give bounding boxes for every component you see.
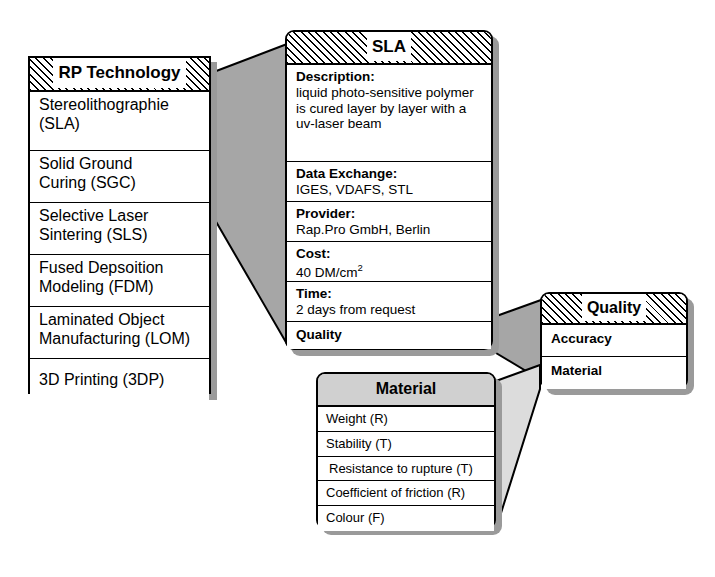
diagram-canvas: RP Technology Stereolithographie (SLA) S… (0, 0, 715, 577)
sla-row-time[interactable]: Time: 2 days from request (287, 282, 491, 322)
sla-row-cost[interactable]: Cost: 40 DM/cm2 (287, 242, 491, 282)
material-item-stability[interactable]: Stability (T) (318, 432, 494, 457)
material-box: Material Weight (R) Stability (T) Resist… (316, 372, 496, 529)
material-item-colour[interactable]: Colour (F) (318, 506, 494, 531)
rp-item-sla-line2: (SLA) (39, 115, 200, 134)
rp-item-lom-line1: Laminated Object (39, 311, 200, 330)
rp-item-fdm[interactable]: Fused Depsoition Modeling (FDM) (30, 255, 209, 307)
material-item-friction-label: Coefficient of friction (R) (326, 485, 465, 500)
sla-cost-key: Cost: (296, 246, 483, 262)
quality-box: Quality Accuracy Material (540, 292, 688, 389)
sla-title: SLA (367, 32, 411, 61)
rp-technology-title: RP Technology (53, 58, 185, 88)
quality-title: Quality (582, 294, 646, 321)
rp-item-3dp[interactable]: 3D Printing (3DP) (30, 359, 209, 403)
rp-item-fdm-line2: Modeling (FDM) (39, 278, 200, 297)
quality-item-accuracy[interactable]: Accuracy (542, 325, 686, 357)
sla-cost-value: 40 DM/cm2 (296, 262, 483, 280)
rp-item-sgc[interactable]: Solid Ground Curing (SGC) (30, 151, 209, 203)
sla-description-key: Description: (296, 69, 483, 85)
sla-row-data-exchange[interactable]: Data Exchange: IGES, VDAFS, STL (287, 162, 491, 202)
rp-item-sls-line2: Sintering (SLS) (39, 226, 200, 245)
material-item-stability-label: Stability (T) (326, 436, 392, 451)
quality-item-material-label: Material (551, 363, 602, 378)
connector-material (496, 365, 540, 529)
rp-technology-box: RP Technology Stereolithographie (SLA) S… (28, 56, 211, 394)
connector-sla (211, 44, 287, 344)
quality-header: Quality (542, 294, 686, 325)
sla-time-key: Time: (296, 286, 483, 302)
sla-provider-value: Rap.Pro GmbH, Berlin (296, 222, 483, 238)
sla-time-value: 2 days from request (296, 302, 483, 318)
rp-item-3dp-line1: 3D Printing (3DP) (39, 371, 200, 390)
material-header: Material (318, 374, 494, 407)
rp-item-sgc-line1: Solid Ground (39, 155, 200, 174)
sla-row-provider[interactable]: Provider: Rap.Pro GmbH, Berlin (287, 202, 491, 242)
material-item-colour-label: Colour (F) (326, 510, 385, 525)
material-title: Material (371, 374, 441, 403)
material-item-rupture-label: Resistance to rupture (T) (329, 461, 473, 476)
rp-technology-header: RP Technology (30, 58, 209, 92)
sla-data-exchange-key: Data Exchange: (296, 166, 483, 182)
sla-quality-label: Quality (296, 327, 483, 343)
material-item-friction[interactable]: Coefficient of friction (R) (318, 481, 494, 506)
rp-item-sgc-line2: Curing (SGC) (39, 174, 200, 193)
sla-description-line2: is cured layer by layer with a (296, 101, 483, 117)
sla-box: SLA Description: liquid photo-sensitive … (285, 30, 493, 350)
sla-provider-key: Provider: (296, 206, 483, 222)
quality-item-material[interactable]: Material (542, 357, 686, 389)
sla-description-line1: liquid photo-sensitive polymer (296, 85, 483, 101)
sla-row-quality[interactable]: Quality (287, 322, 491, 349)
sla-cost-number: 40 DM/cm (296, 264, 358, 279)
quality-item-accuracy-label: Accuracy (551, 331, 612, 346)
rp-item-sla[interactable]: Stereolithographie (SLA) (30, 92, 209, 151)
rp-item-lom-line2: Manufacturing (LOM) (39, 330, 200, 349)
material-item-rupture[interactable]: Resistance to rupture (T) (318, 457, 494, 482)
material-item-weight[interactable]: Weight (R) (318, 407, 494, 432)
material-item-weight-label: Weight (R) (326, 411, 388, 426)
rp-item-sls-line1: Selective Laser (39, 207, 200, 226)
sla-description-line3: uv-laser beam (296, 116, 483, 132)
rp-item-lom[interactable]: Laminated Object Manufacturing (LOM) (30, 307, 209, 359)
rp-item-fdm-line1: Fused Depsoition (39, 259, 200, 278)
sla-row-description[interactable]: Description: liquid photo-sensitive poly… (287, 65, 491, 162)
sla-cost-superscript: 2 (358, 262, 363, 273)
rp-item-sla-line1: Stereolithographie (39, 96, 200, 115)
sla-data-exchange-value: IGES, VDAFS, STL (296, 182, 483, 198)
sla-header: SLA (287, 32, 491, 65)
rp-item-sls[interactable]: Selective Laser Sintering (SLS) (30, 203, 209, 255)
